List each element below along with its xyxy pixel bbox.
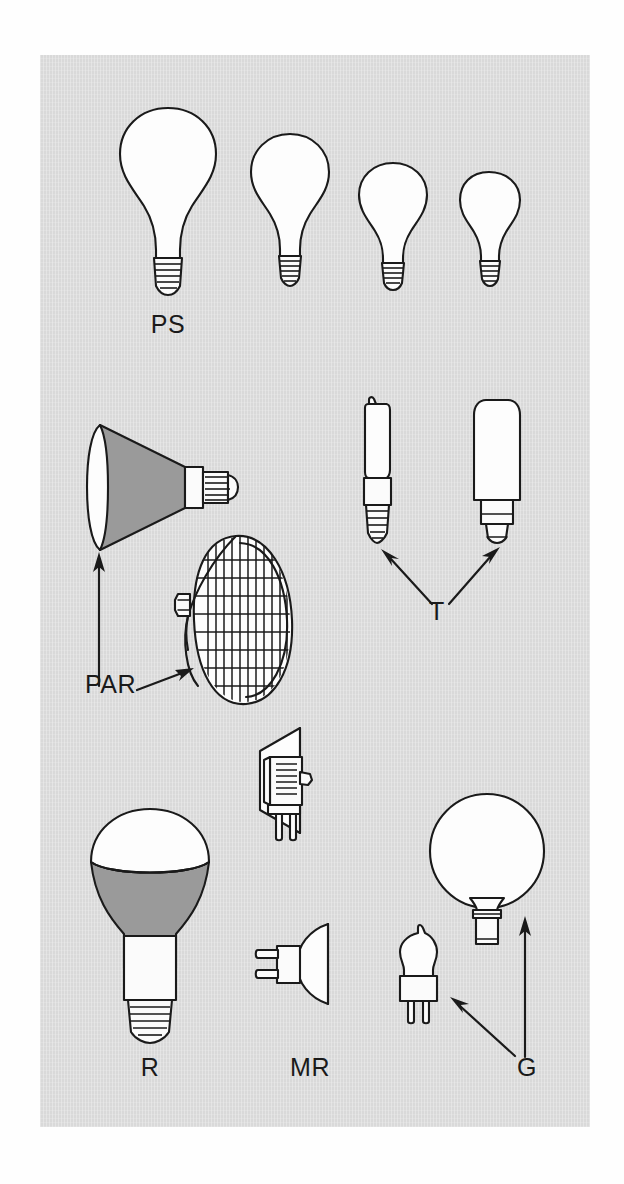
g-lamp-bipin-capsule (400, 925, 437, 1023)
ps-lamp-smallest (460, 172, 520, 286)
g-vertical-arrow (519, 916, 531, 1057)
ps-lamp-large (120, 108, 216, 295)
lamp-shapes-illustration: .ln{fill:none;stroke:#1a1a1a;stroke-widt… (0, 0, 624, 1184)
mr-lamp-perspective (260, 728, 312, 840)
label-r: R (141, 1055, 160, 1080)
g-diagonal-arrow (450, 997, 515, 1056)
label-g: G (517, 1055, 537, 1080)
t-left-arrow (381, 549, 432, 604)
t-lamp-slim (364, 397, 391, 543)
label-ps: PS (151, 312, 185, 337)
t-right-arrow (449, 547, 500, 604)
figure-page: .ln{fill:none;stroke:#1a1a1a;stroke-widt… (0, 0, 624, 1184)
r-lamp (91, 809, 209, 1043)
g-lamp-globe (430, 794, 544, 944)
par-lamp-side-view (87, 425, 238, 550)
ps-lamp-small (359, 163, 427, 290)
ps-lamp-medium (251, 134, 329, 286)
par-diagonal-arrow (137, 668, 194, 690)
t-lamp-tubular (474, 400, 520, 543)
label-t: T (429, 599, 445, 624)
par-vertical-arrow (93, 552, 105, 686)
label-mr: MR (290, 1055, 330, 1080)
label-par: PAR (85, 672, 136, 697)
mr-lamp-front (256, 924, 328, 1004)
par-lamp-face-view (175, 536, 293, 706)
